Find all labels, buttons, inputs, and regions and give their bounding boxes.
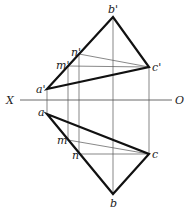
axis-label-o: O [175, 94, 184, 107]
label-c-prime: c' [152, 61, 161, 74]
line-m-c [68, 140, 149, 154]
projection-diagram: X O b' c' a' m' n' a m n c b [0, 0, 196, 216]
label-m: m [57, 134, 67, 147]
label-m-prime: m' [56, 59, 69, 72]
axis-label-x: X [5, 94, 15, 107]
line-n-prime-c-prime [79, 54, 149, 67]
label-a-prime: a' [36, 83, 46, 96]
label-n-prime: n' [71, 46, 81, 59]
triangle-front-view [47, 17, 149, 89]
label-b: b [110, 197, 117, 210]
label-c: c [152, 148, 158, 161]
label-n: n [72, 149, 79, 162]
label-b-prime: b' [108, 3, 118, 16]
line-m-prime-c-prime [68, 66, 149, 67]
label-a: a [38, 106, 45, 119]
